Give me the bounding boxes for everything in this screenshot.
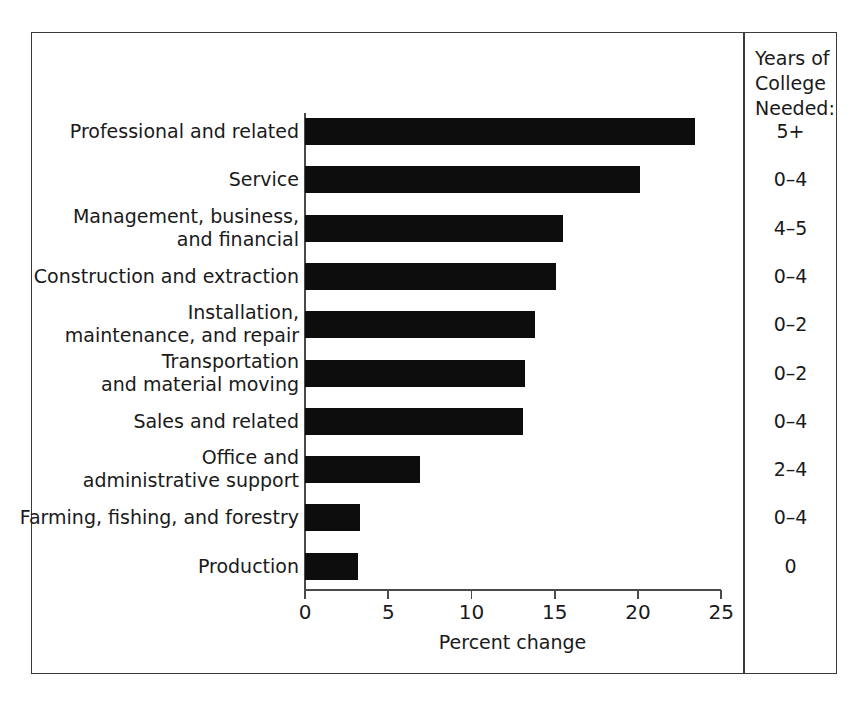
bar [305, 360, 525, 387]
years-of-college-value: 0–4 [744, 408, 837, 435]
bar-chart-figure: Years of College Needed: 0510152025 Prof… [0, 0, 865, 704]
category-label: Professional and related [9, 120, 299, 143]
bar [305, 408, 523, 435]
x-tick-mark [554, 590, 556, 599]
x-tick-label: 5 [358, 600, 418, 624]
bar [305, 215, 563, 242]
x-tick-mark [387, 590, 389, 599]
years-of-college-value: 4–5 [744, 215, 837, 242]
years-of-college-value: 5+ [744, 118, 837, 145]
years-of-college-value: 0–4 [744, 263, 837, 290]
x-tick-mark [637, 590, 639, 599]
x-tick-mark [304, 590, 306, 599]
category-label: Production [9, 555, 299, 578]
chart-row: Farming, fishing, and forestry0–4 [0, 504, 865, 531]
chart-row: Management, business, and financial4–5 [0, 215, 865, 242]
x-tick-mark [720, 590, 722, 599]
plot-area: 0510152025 Professional and related5+Ser… [0, 0, 865, 704]
chart-row: Professional and related5+ [0, 118, 865, 145]
bar [305, 553, 358, 580]
category-label: Farming, fishing, and forestry [9, 506, 299, 529]
chart-row: Production0 [0, 553, 865, 580]
bar [305, 263, 556, 290]
chart-row: Installation, maintenance, and repair0–2 [0, 311, 865, 338]
chart-row: Service0–4 [0, 166, 865, 193]
chart-row: Sales and related0–4 [0, 408, 865, 435]
years-of-college-value: 0 [744, 553, 837, 580]
x-tick-mark [471, 590, 473, 599]
chart-row: Transportation and material moving0–2 [0, 360, 865, 387]
years-of-college-value: 2–4 [744, 456, 837, 483]
bar [305, 456, 420, 483]
chart-row: Office and administrative support2–4 [0, 456, 865, 483]
x-axis-line [304, 589, 721, 591]
x-tick-label: 0 [275, 600, 335, 624]
category-label: Sales and related [9, 410, 299, 433]
category-label: Management, business, and financial [9, 205, 299, 251]
years-of-college-value: 0–2 [744, 360, 837, 387]
x-tick-label: 15 [525, 600, 585, 624]
x-tick-label: 25 [691, 600, 751, 624]
x-tick-label: 10 [442, 600, 502, 624]
x-tick-label: 20 [608, 600, 668, 624]
chart-row: Construction and extraction0–4 [0, 263, 865, 290]
category-label: Installation, maintenance, and repair [9, 301, 299, 347]
years-of-college-value: 0–2 [744, 311, 837, 338]
category-label: Service [9, 168, 299, 191]
category-label: Construction and extraction [9, 265, 299, 288]
years-of-college-value: 0–4 [744, 166, 837, 193]
category-label: Transportation and material moving [9, 350, 299, 396]
bar [305, 118, 695, 145]
years-of-college-value: 0–4 [744, 504, 837, 531]
bar [305, 166, 640, 193]
category-label: Office and administrative support [9, 446, 299, 492]
bar [305, 504, 360, 531]
bar [305, 311, 535, 338]
x-axis-title: Percent change [304, 631, 721, 653]
